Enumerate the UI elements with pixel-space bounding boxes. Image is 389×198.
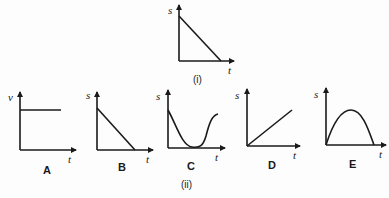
graph-line — [179, 16, 221, 61]
y-axis-label: s — [86, 89, 90, 101]
graph-letter-e: E — [349, 158, 356, 170]
graph-letter-b: B — [118, 161, 126, 173]
graph-e: s t E — [314, 88, 386, 170]
y-axis-label: v — [8, 91, 13, 103]
graph-b: s t B — [86, 89, 153, 173]
x-axis-label: t — [68, 153, 72, 165]
y-axis-label: s — [156, 90, 160, 102]
graph-line — [247, 110, 292, 146]
x-axis-label: t — [215, 151, 219, 163]
x-axis-label: t — [379, 148, 383, 160]
graphs-canvas: s t (i) v t A s t B s t C s t D — [0, 0, 389, 198]
graph-line — [97, 108, 135, 150]
y-axis-label: s — [235, 89, 239, 101]
x-axis-label: t — [228, 64, 232, 76]
y-axis-label: s — [168, 4, 172, 16]
graph-i: s t (i) — [168, 4, 234, 85]
x-axis-label: t — [293, 149, 297, 161]
graph-letter-c: C — [187, 160, 195, 172]
graph-d: s t D — [235, 89, 300, 171]
x-axis-label: t — [146, 153, 150, 165]
caption-i: (i) — [193, 74, 202, 85]
caption-ii: (ii) — [181, 179, 192, 190]
figure: s t (i) v t A s t B s t C s t D — [0, 0, 389, 198]
y-axis-label: s — [314, 88, 318, 100]
graph-letter-a: A — [43, 164, 51, 176]
graph-letter-d: D — [268, 159, 276, 171]
graph-a: v t A — [8, 91, 76, 176]
graph-c: s t C — [156, 90, 225, 172]
graph-curve — [326, 110, 374, 145]
graph-curve — [168, 110, 218, 147]
